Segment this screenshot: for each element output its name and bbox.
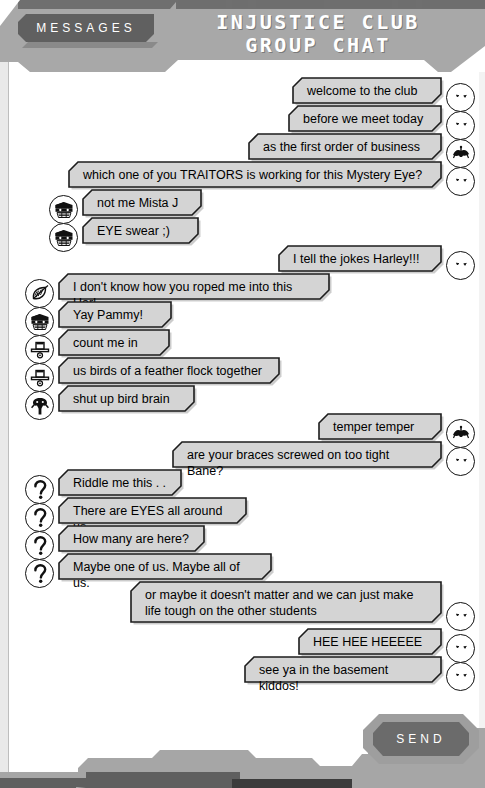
- message-row: shut up bird brain: [25, 386, 479, 411]
- page-title-line1: INJUSTICE CLUB: [168, 12, 468, 32]
- message-row: Yay Pammy!: [25, 302, 479, 327]
- message-row: see ya in the basement kiddos!: [9, 657, 475, 682]
- frame-right-edge: [479, 0, 485, 788]
- message-text: Yay Pammy!: [59, 302, 171, 329]
- message-row: How many are here?: [25, 526, 479, 551]
- joker-face-icon[interactable]: [446, 662, 475, 691]
- message-text: us birds of a feather flock together: [59, 358, 279, 385]
- message-bubble[interactable]: I tell the jokes Harley!!!: [279, 246, 441, 271]
- message-bubble[interactable]: Riddle me this . . .: [59, 470, 181, 495]
- joker-face-icon[interactable]: [446, 602, 475, 631]
- message-bubble[interactable]: as the first order of business: [249, 134, 441, 159]
- message-text: which one of you TRAITORS is working for…: [69, 162, 441, 189]
- message-row: before we meet today: [9, 106, 475, 131]
- frame-left-edge: [0, 0, 9, 788]
- message-row: welcome to the club: [9, 78, 475, 103]
- header-deco-block: [178, 0, 226, 8]
- header-deco-block: [232, 0, 248, 8]
- message-row: EYE swear ;): [49, 218, 479, 243]
- send-button[interactable]: SEND: [363, 714, 479, 764]
- message-bubble[interactable]: or maybe it doesn't matter and we can ju…: [131, 582, 441, 622]
- message-row: HEE HEE HEEEEE: [9, 629, 475, 654]
- messages-tab-shadow: [22, 42, 158, 48]
- message-bubble[interactable]: count me in: [59, 330, 169, 355]
- message-row: I tell the jokes Harley!!!: [9, 246, 475, 271]
- app-footer: SEND: [0, 700, 485, 788]
- message-bubble[interactable]: shut up bird brain: [59, 386, 194, 411]
- message-bubble[interactable]: see ya in the basement kiddos!: [245, 657, 441, 682]
- tab-messages-label: MESSAGES: [36, 21, 135, 35]
- message-bubble[interactable]: not me Mista J: [83, 190, 201, 215]
- message-list[interactable]: welcome to the club before we meet today…: [9, 72, 479, 700]
- message-row: as the first order of business: [9, 134, 475, 159]
- message-text: before we meet today: [289, 106, 441, 133]
- message-text: How many are here?: [59, 526, 204, 553]
- message-text: EYE swear ;): [83, 218, 198, 245]
- message-bubble[interactable]: I don't know how you roped me into this …: [59, 274, 329, 299]
- tab-messages[interactable]: MESSAGES: [18, 14, 154, 42]
- message-bubble[interactable]: How many are here?: [59, 526, 204, 551]
- message-text: shut up bird brain: [59, 386, 194, 413]
- message-row: There are EYES all around us.: [25, 498, 479, 523]
- message-bubble[interactable]: EYE swear ;): [83, 218, 198, 243]
- message-bubble[interactable]: are your braces screwed on too tight Ban…: [173, 442, 441, 467]
- message-bubble[interactable]: which one of you TRAITORS is working for…: [69, 162, 441, 187]
- message-bubble[interactable]: us birds of a feather flock together: [59, 358, 279, 383]
- send-button-label: SEND: [396, 732, 445, 746]
- message-text: count me in: [59, 330, 169, 357]
- message-text: I tell the jokes Harley!!!: [279, 246, 441, 273]
- message-row: Riddle me this . . .: [25, 470, 479, 495]
- message-text: as the first order of business: [249, 134, 441, 161]
- message-row: are your braces screwed on too tight Ban…: [9, 442, 475, 467]
- header-deco-block: [256, 0, 324, 8]
- message-bubble[interactable]: Maybe one of us. Maybe all of us.: [59, 554, 271, 579]
- header-deco-block: [398, 0, 416, 8]
- page-title-line2: GROUP CHAT: [168, 35, 468, 55]
- page-title: INJUSTICE CLUB GROUP CHAT: [168, 12, 468, 55]
- app-header: MESSAGES INJUSTICE CLUB GROUP CHAT: [0, 0, 485, 72]
- message-bubble[interactable]: welcome to the club: [293, 78, 441, 103]
- injustice-club-group-chat-screen: MESSAGES INJUSTICE CLUB GROUP CHAT welco…: [0, 0, 485, 788]
- message-bubble[interactable]: There are EYES all around us.: [59, 498, 246, 523]
- message-row: temper temper: [9, 414, 475, 439]
- footer-dark-block: [232, 779, 352, 788]
- header-deco-block: [330, 0, 392, 8]
- message-text: temper temper: [319, 414, 441, 441]
- message-text: see ya in the basement kiddos!: [245, 657, 441, 700]
- message-bubble[interactable]: temper temper: [319, 414, 441, 439]
- header-deco-block: [422, 0, 485, 8]
- message-bubble[interactable]: before we meet today: [289, 106, 441, 131]
- message-row: not me Mista J: [49, 190, 479, 215]
- message-text: welcome to the club: [293, 78, 441, 105]
- message-row: count me in: [25, 330, 479, 355]
- message-row: us birds of a feather flock together: [25, 358, 479, 383]
- message-row: or maybe it doesn't matter and we can ju…: [9, 582, 475, 622]
- message-text: HEE HEE HEEEEE: [299, 629, 441, 656]
- message-text: not me Mista J: [83, 190, 201, 217]
- message-row: I don't know how you roped me into this …: [25, 274, 479, 299]
- message-row: Maybe one of us. Maybe all of us.: [25, 554, 479, 579]
- message-row: which one of you TRAITORS is working for…: [9, 162, 475, 187]
- send-button-inner: SEND: [373, 722, 469, 756]
- message-bubble[interactable]: HEE HEE HEEEEE: [299, 629, 441, 654]
- message-text: or maybe it doesn't matter and we can ju…: [131, 582, 441, 626]
- message-bubble[interactable]: Yay Pammy!: [59, 302, 171, 327]
